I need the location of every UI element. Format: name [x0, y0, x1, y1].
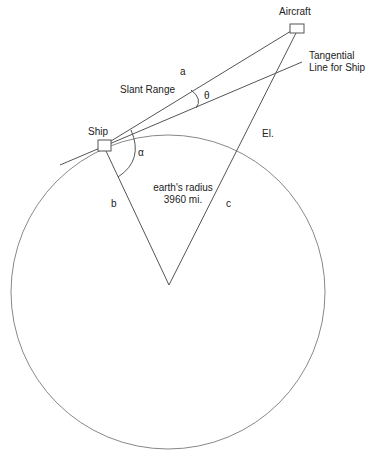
elevation-label: El.: [262, 128, 274, 140]
side-b-label: b: [111, 198, 117, 210]
earths-radius-label: earth's radius: [138, 182, 228, 194]
ship-label: Ship: [88, 126, 108, 138]
slant-range-label: Slant Range: [120, 84, 175, 96]
line-c: [169, 33, 296, 285]
alpha-label: α: [138, 147, 144, 159]
tangential-line-label-2: Line for Ship: [309, 62, 365, 74]
radius-line-b: [106, 151, 169, 285]
radius-value-label: 3960 mi.: [138, 194, 228, 206]
aircraft-box: [290, 24, 304, 33]
side-c-label: c: [226, 198, 231, 210]
ship-box: [98, 140, 111, 151]
side-a-label: a: [180, 66, 186, 78]
theta-arc: [191, 90, 199, 108]
tangential-line-label-1: Tangential: [309, 50, 355, 62]
theta-label: θ: [204, 90, 210, 102]
aircraft-label: Aircraft: [279, 6, 311, 18]
